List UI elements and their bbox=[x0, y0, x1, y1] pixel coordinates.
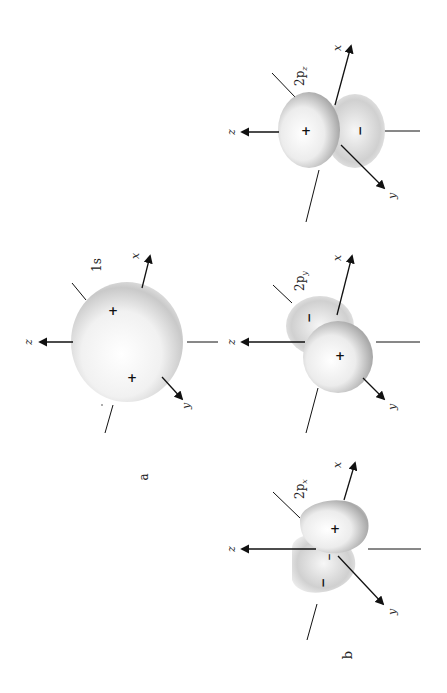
orbital-label-2py: 2py bbox=[293, 271, 309, 291]
axis-line bbox=[307, 604, 317, 640]
z-axis-label: z bbox=[225, 339, 238, 346]
y-axis-label: y bbox=[386, 608, 399, 616]
orbital-label-2pz: 2pz bbox=[293, 66, 309, 86]
sign-minus: − bbox=[302, 313, 316, 323]
x-axis-arrow bbox=[344, 463, 355, 500]
sign-plus: + bbox=[330, 522, 340, 536]
y-axis-label: y bbox=[386, 192, 399, 200]
orbital-2py: + − z x y 2py bbox=[225, 254, 420, 433]
panel-label-b: b bbox=[340, 651, 355, 659]
sign-plus: + bbox=[301, 124, 311, 138]
orbital-2px: + − − z x y 2px bbox=[225, 461, 421, 640]
svg-text:2px: 2px bbox=[293, 479, 309, 499]
x-axis-arrow bbox=[142, 256, 150, 288]
tick-line bbox=[72, 283, 86, 300]
sign-plus: + bbox=[108, 304, 118, 318]
z-axis-label: z bbox=[225, 129, 238, 136]
sign-plus: + bbox=[127, 371, 137, 385]
tick-line bbox=[273, 285, 292, 303]
orbital-2pz: + − z x y 2pz bbox=[225, 44, 420, 222]
y-axis-arrow bbox=[363, 378, 384, 399]
x-axis-label: x bbox=[129, 252, 142, 259]
svg-text:2py: 2py bbox=[293, 271, 309, 291]
axis-line bbox=[306, 388, 318, 433]
sign-minus: − bbox=[353, 126, 367, 136]
y-axis-label: y bbox=[386, 403, 399, 411]
z-axis-label: z bbox=[225, 546, 238, 553]
orbital-label-2px: 2px bbox=[293, 479, 309, 499]
orbital-1s: + + z x y 1s bbox=[22, 252, 218, 433]
x-axis-label: x bbox=[331, 461, 344, 468]
y-axis-arrow bbox=[162, 377, 182, 399]
tick-line bbox=[272, 73, 295, 97]
axis-line bbox=[306, 170, 319, 222]
x-axis-label: x bbox=[331, 44, 344, 51]
x-axis-label: x bbox=[331, 254, 344, 261]
sign-minus: − bbox=[316, 578, 330, 588]
sign-minus: − bbox=[324, 553, 334, 561]
panel-label-a: a bbox=[137, 473, 151, 480]
svg-text:2pz: 2pz bbox=[293, 66, 309, 86]
orbital-label-1s: 1s bbox=[90, 258, 104, 272]
sign-plus: + bbox=[335, 349, 345, 363]
orbital-diagram: + − z x y 2pz + + z x y 1s + − z bbox=[0, 0, 447, 693]
z-axis-label: z bbox=[22, 339, 35, 346]
axis-line bbox=[105, 405, 113, 433]
y-axis-label: y bbox=[180, 402, 193, 410]
